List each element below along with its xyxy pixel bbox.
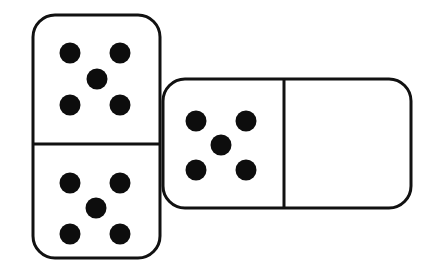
- pip: [60, 43, 81, 64]
- vertical-domino[interactable]: [33, 15, 160, 258]
- pip: [87, 69, 108, 90]
- pip: [236, 160, 257, 181]
- pip: [110, 95, 131, 116]
- pip: [86, 198, 107, 219]
- domino-scene-canvas: [0, 0, 441, 263]
- horizontal-domino-body: [163, 79, 411, 208]
- pip: [60, 173, 81, 194]
- pip: [211, 135, 232, 156]
- horizontal-domino[interactable]: [163, 79, 411, 208]
- pip: [110, 173, 131, 194]
- vertical-domino-body: [33, 15, 160, 258]
- domino-scene: [0, 0, 441, 263]
- pip: [236, 111, 257, 132]
- pip: [60, 95, 81, 116]
- pip: [110, 224, 131, 245]
- pip: [186, 111, 207, 132]
- pip: [110, 43, 131, 64]
- pip: [60, 224, 81, 245]
- pip: [186, 160, 207, 181]
